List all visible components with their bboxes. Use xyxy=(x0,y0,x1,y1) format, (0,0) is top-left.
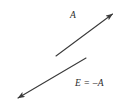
vector-diagram-canvas xyxy=(0,0,128,107)
vector-a-label: A xyxy=(70,11,76,21)
vector-arrow-a xyxy=(56,14,113,56)
vector-e-label: E = –A xyxy=(75,79,104,89)
vector-diagram-figure: A E = –A xyxy=(0,0,128,107)
vector-a-line xyxy=(56,14,113,56)
